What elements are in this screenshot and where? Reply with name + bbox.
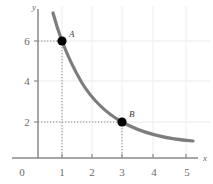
y-tick-label-6: 6 [24, 35, 30, 47]
data-point-b [117, 117, 126, 126]
x-axis-label: x [202, 153, 207, 163]
data-point-b-label: B [129, 109, 135, 119]
data-point-a [57, 36, 66, 45]
x-tick-label-3: 3 [119, 166, 125, 178]
leader-lines [38, 41, 122, 158]
x-tick-label-0: 0 [19, 166, 25, 178]
coordinate-plot: A B y x 0 1 2 3 4 5 2 4 6 [0, 0, 213, 184]
gridlines [38, 6, 210, 157]
y-tick-label-2: 2 [24, 116, 30, 128]
x-tick-label-4: 4 [151, 166, 157, 178]
tick-marks [34, 41, 186, 158]
data-point-a-label: A [68, 29, 75, 39]
y-tick-label-4: 4 [24, 75, 30, 87]
y-axis-label: y [31, 2, 36, 12]
x-tick-label-1: 1 [59, 166, 65, 178]
x-tick-label-5: 5 [184, 166, 190, 178]
graph-figure: A B y x 0 1 2 3 4 5 2 4 6 [0, 0, 213, 184]
x-tick-label-2: 2 [89, 166, 95, 178]
axes [12, 9, 198, 158]
